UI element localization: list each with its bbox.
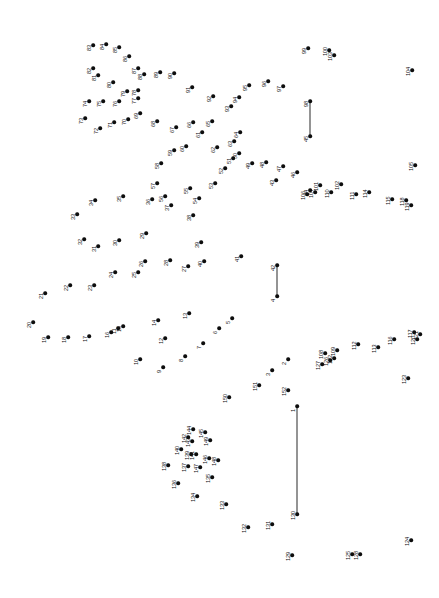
dot-number-label: 79 xyxy=(120,90,126,96)
dot-number-label: 52 xyxy=(218,167,224,173)
dot-number-label: 93 xyxy=(224,105,230,111)
dot-number-label: 57 xyxy=(150,182,156,188)
dot-number-label: 123 xyxy=(401,374,407,383)
dot-number-label: 33 xyxy=(70,213,76,219)
dot-number-label: 124 xyxy=(404,536,410,545)
dot-number-label: 26 xyxy=(138,260,144,266)
dot-number-label: 34 xyxy=(88,199,94,205)
dot-number-label: 64 xyxy=(233,131,239,137)
dot-number-label: 113 xyxy=(371,344,377,353)
dot-number-label: 149 xyxy=(203,436,209,445)
dot-number-label: 23 xyxy=(87,284,93,290)
dot-number-label: 4 xyxy=(270,298,276,301)
dot-number-label: 38 xyxy=(186,214,192,220)
dot-number-label: 111 xyxy=(349,191,355,199)
dot-number-label: 130 xyxy=(290,510,296,519)
puzzle-dot[interactable] xyxy=(201,341,205,345)
dot-number-label: 87 xyxy=(131,67,137,73)
dot-number-label: 90 xyxy=(167,72,173,78)
dot-number-label: 94 xyxy=(232,96,238,102)
puzzle-dot[interactable] xyxy=(183,354,187,358)
dot-number-label: 85 xyxy=(112,46,118,52)
dot-number-label: 7 xyxy=(196,345,202,348)
dot-number-label: 27 xyxy=(181,265,187,271)
dot-number-label: 95 xyxy=(242,84,248,90)
dot-number-label: 30 xyxy=(112,239,118,245)
dot-number-label: 91 xyxy=(185,86,191,92)
puzzle-dot[interactable] xyxy=(286,357,290,361)
dot-number-label: 146 xyxy=(202,454,208,463)
dot-number-label: 127 xyxy=(315,360,321,369)
dot-number-label: 24 xyxy=(108,271,114,277)
dot-number-label: 17 xyxy=(82,335,88,341)
dot-number-label: 42 xyxy=(270,264,276,270)
dot-number-label: 9 xyxy=(156,369,162,372)
puzzle-dot[interactable] xyxy=(217,326,221,330)
dot-number-label: 147 xyxy=(193,463,199,472)
dot-number-label: 83 xyxy=(86,44,92,50)
dot-number-label: 31 xyxy=(91,245,97,251)
dot-number-label: 89 xyxy=(153,71,159,77)
dot-number-label: 98 xyxy=(303,100,309,106)
dot-number-label: 61 xyxy=(195,131,201,137)
puzzle-dot[interactable] xyxy=(295,404,299,408)
dot-number-label: 22 xyxy=(63,284,69,290)
dot-number-label: 76 xyxy=(112,100,118,106)
dot-number-label: 114 xyxy=(362,189,368,198)
dot-number-label: 35 xyxy=(116,195,122,201)
dot-number-label: 53 xyxy=(208,182,214,188)
dot-number-label: 70 xyxy=(121,118,127,124)
puzzle-dot[interactable] xyxy=(230,316,234,320)
dot-number-label: 103 xyxy=(327,51,333,60)
dot-number-label: 129 xyxy=(285,551,291,560)
dot-number-label: 39 xyxy=(194,241,200,247)
dot-number-label: 115 xyxy=(385,196,391,205)
dot-number-label: 77 xyxy=(131,97,137,103)
dot-number-label: 110 xyxy=(324,189,330,198)
puzzle-dot[interactable] xyxy=(270,368,274,372)
dot-number-label: 75 xyxy=(96,100,102,106)
dot-number-label: 112 xyxy=(351,341,357,350)
dot-number-label: 51 xyxy=(226,157,232,163)
dot-number-label: 8 xyxy=(178,358,184,361)
dot-number-label: 66 xyxy=(186,121,192,127)
dot-number-label: 148 xyxy=(211,456,217,465)
dot-number-label: 135 xyxy=(205,473,211,482)
dot-number-label: 43 xyxy=(269,179,275,185)
dot-number-label: 81 xyxy=(91,74,97,80)
puzzle-dot[interactable] xyxy=(275,294,279,298)
dot-number-label: 28 xyxy=(163,259,169,265)
dot-number-label: 36 xyxy=(145,198,151,204)
dot-number-label: 144 xyxy=(186,425,192,434)
dot-number-label: 68 xyxy=(150,120,156,126)
dot-number-label: 151 xyxy=(252,381,258,390)
dot-number-label: 20 xyxy=(26,321,32,327)
puzzle-dot[interactable] xyxy=(161,365,165,369)
dot-number-label: 136 xyxy=(171,479,177,488)
dot-number-label: 47 xyxy=(276,165,282,171)
dot-number-label: 13 xyxy=(182,312,188,318)
dot-number-label: 71 xyxy=(107,121,113,127)
dot-number-label: 2 xyxy=(281,361,287,364)
dot-number-label: 54 xyxy=(192,197,198,203)
dot-number-label: 37 xyxy=(164,204,170,210)
dot-number-label: 134 xyxy=(190,492,196,501)
dot-number-label: 107 xyxy=(308,188,314,197)
dot-number-label: 86 xyxy=(122,55,128,61)
dot-number-label: 150 xyxy=(222,393,228,402)
dot-number-label: 41 xyxy=(234,255,240,261)
dot-number-label: 105 xyxy=(408,161,414,170)
dot-number-label: 84 xyxy=(99,43,105,49)
dot-number-label: 29 xyxy=(139,232,145,238)
dot-number-label: 143 xyxy=(185,437,191,446)
dot-number-label: 82 xyxy=(86,67,92,73)
dot-number-label: 80 xyxy=(106,81,112,87)
dot-number-label: 46 xyxy=(290,171,296,177)
dot-number-label: 132 xyxy=(241,523,247,532)
dot-number-label: 96 xyxy=(261,80,267,86)
dot-number-label: 116 xyxy=(387,336,393,345)
dot-number-label: 45 xyxy=(303,135,309,141)
dot-number-label: 18 xyxy=(61,336,67,342)
dot-number-label: 58 xyxy=(154,162,160,168)
guide-segment xyxy=(297,406,298,514)
